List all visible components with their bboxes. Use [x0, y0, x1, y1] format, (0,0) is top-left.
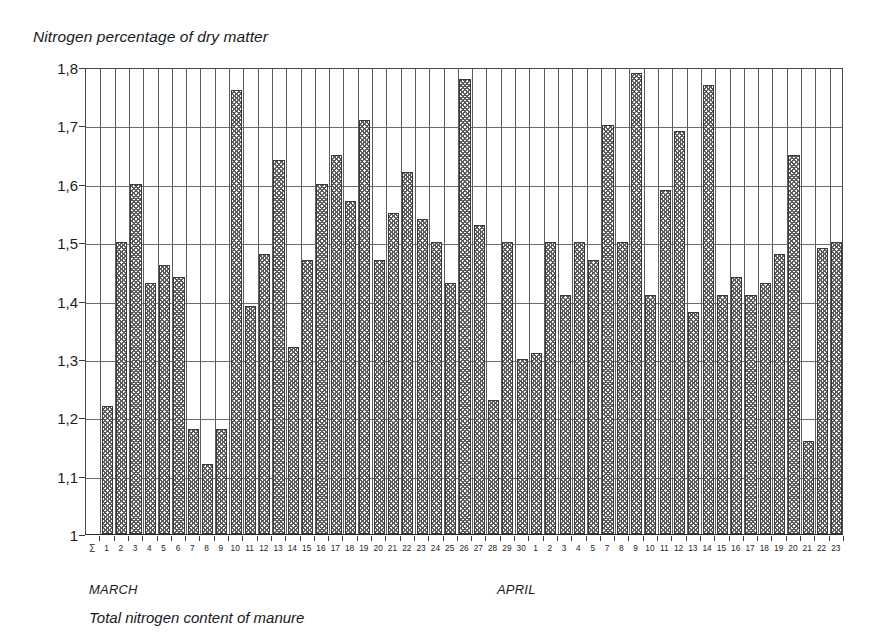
x-axis-tick — [242, 536, 243, 541]
x-axis-label: 18 — [345, 543, 354, 554]
bar — [331, 155, 342, 534]
x-axis-label: 23 — [416, 543, 425, 554]
bar — [717, 295, 728, 534]
y-axis: 11,11,21,31,41,51,61,71,8 — [0, 0, 78, 639]
x-axis-tick — [600, 536, 601, 541]
bar — [545, 242, 556, 534]
y-axis-label: 1,6 — [4, 176, 78, 193]
x-axis-tick — [643, 536, 644, 541]
x-axis-tick — [786, 536, 787, 541]
x-axis-tick — [743, 536, 744, 541]
x-axis-tick — [199, 536, 200, 541]
x-axis-tick — [114, 536, 115, 541]
x-axis-tick — [99, 536, 100, 541]
y-axis-tick — [79, 535, 85, 536]
plot-area — [85, 68, 843, 535]
bar — [159, 265, 170, 534]
bar — [760, 283, 771, 534]
x-axis-tick — [500, 536, 501, 541]
bar — [216, 429, 227, 534]
x-axis-tick — [428, 536, 429, 541]
bar — [388, 213, 399, 534]
x-axis-tick — [557, 536, 558, 541]
x-axis-label: 8 — [204, 543, 209, 554]
y-axis-label: 1,3 — [4, 351, 78, 368]
x-axis-label: 9 — [633, 543, 638, 554]
bar — [130, 184, 141, 534]
x-axis-tick — [586, 536, 587, 541]
bar — [488, 400, 499, 534]
x-axis-label: 6 — [176, 543, 181, 554]
x-axis: Σ123456789101112131415161718192021222324… — [85, 543, 843, 559]
x-axis-tick — [700, 536, 701, 541]
bar — [688, 312, 699, 534]
bar — [302, 260, 313, 534]
bar — [459, 79, 470, 534]
x-axis-label: 11 — [245, 543, 254, 554]
y-axis-label: 1,7 — [4, 118, 78, 135]
x-axis-label: 26 — [459, 543, 468, 554]
x-axis-tick — [414, 536, 415, 541]
x-axis-tick — [628, 536, 629, 541]
x-axis-tick — [614, 536, 615, 541]
x-axis-tick — [800, 536, 801, 541]
x-axis-label: 1 — [533, 543, 538, 554]
bar — [145, 283, 156, 534]
group-label-march: MARCH — [89, 582, 138, 597]
bar — [259, 254, 270, 534]
bar — [188, 429, 199, 534]
y-axis-label: 1,4 — [4, 293, 78, 310]
bar — [273, 160, 284, 534]
bar — [345, 201, 356, 534]
bar — [703, 85, 714, 534]
x-axis-tick — [128, 536, 129, 541]
bar — [674, 131, 685, 534]
bar — [359, 120, 370, 534]
x-axis-tick — [686, 536, 687, 541]
bar — [517, 359, 528, 534]
group-label-april: APRIL — [497, 582, 536, 597]
x-axis-tick — [514, 536, 515, 541]
bar — [560, 295, 571, 534]
bar — [817, 248, 828, 534]
bar — [660, 190, 671, 534]
x-axis-label: 2 — [547, 543, 552, 554]
bar — [431, 242, 442, 534]
x-axis-tick — [157, 536, 158, 541]
x-axis-label: 22 — [817, 543, 826, 554]
x-axis-label: 2 — [118, 543, 123, 554]
bar — [474, 225, 485, 534]
x-axis-tick — [214, 536, 215, 541]
x-axis-tick — [314, 536, 315, 541]
x-axis-tick — [328, 536, 329, 541]
x-axis-label: 20 — [374, 543, 383, 554]
x-axis-tick — [757, 536, 758, 541]
x-axis-label: 27 — [474, 543, 483, 554]
x-axis-label: 5 — [590, 543, 595, 554]
x-axis-label: 15 — [302, 543, 311, 554]
x-axis-label: 14 — [288, 543, 297, 554]
x-axis-tick — [829, 536, 830, 541]
bar — [588, 260, 599, 534]
x-axis-tick — [257, 536, 258, 541]
x-axis-label: 13 — [273, 543, 282, 554]
x-axis-label: 22 — [402, 543, 411, 554]
bar — [417, 219, 428, 534]
x-axis-tick — [843, 536, 844, 541]
x-axis-label: 3 — [133, 543, 138, 554]
bar-series — [86, 69, 842, 534]
x-axis-label: 30 — [517, 543, 526, 554]
x-axis-tick — [285, 536, 286, 541]
y-axis-label: 1,5 — [4, 235, 78, 252]
x-axis-tick — [571, 536, 572, 541]
bar — [731, 277, 742, 534]
x-axis-label: 10 — [231, 543, 240, 554]
x-axis-tick — [771, 536, 772, 541]
bar — [102, 406, 113, 534]
x-axis-label: 23 — [831, 543, 840, 554]
x-axis-tick — [228, 536, 229, 541]
bar — [774, 254, 785, 534]
x-axis-tick — [400, 536, 401, 541]
bar — [402, 172, 413, 534]
x-axis-label: 1 — [104, 543, 109, 554]
